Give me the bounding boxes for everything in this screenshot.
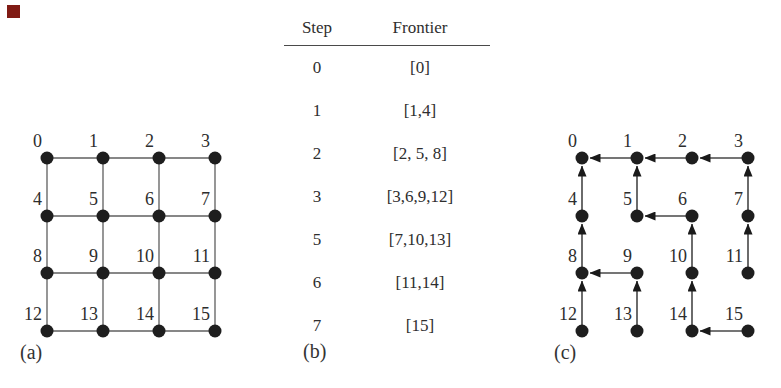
node-label-4: 4 — [33, 189, 42, 209]
node-label-11: 11 — [193, 246, 210, 266]
graph-node-2 — [686, 152, 699, 165]
frontier-cell: [2, 5, 8] — [350, 144, 490, 164]
node-label-1: 1 — [89, 131, 98, 151]
step-cell: 0 — [284, 58, 350, 78]
graph-node-10 — [153, 267, 166, 280]
graph-node-4 — [41, 210, 54, 223]
frontier-cell: [0] — [350, 58, 490, 78]
frontier-cell: [3,6,9,12] — [350, 187, 490, 207]
node-label-12: 12 — [559, 304, 577, 324]
graph-node-8 — [41, 267, 54, 280]
graph-node-5 — [631, 210, 644, 223]
node-label-9: 9 — [623, 246, 632, 266]
graph-node-4 — [576, 210, 589, 223]
node-label-15: 15 — [192, 304, 210, 324]
node-label-13: 13 — [80, 304, 98, 324]
bfs-figure: 0123456789101112131415 01234567891011121… — [0, 0, 781, 388]
node-label-2: 2 — [678, 131, 687, 151]
frontier-table-rows: 0 [0] 1 [1,4] 2 [2, 5, 8] 3 [3,6,9,12] 5… — [284, 46, 490, 347]
graph-node-11 — [209, 267, 222, 280]
caption-a: (a) — [20, 341, 42, 364]
graph-node-0 — [41, 152, 54, 165]
frontier-table: Step Frontier 0 [0] 1 [1,4] 2 [2, 5, 8] … — [284, 10, 490, 347]
grid-graph-panel-a: 0123456789101112131415 — [24, 131, 222, 338]
step-cell: 1 — [284, 101, 350, 121]
node-label-6: 6 — [145, 189, 154, 209]
graph-node-7 — [209, 210, 222, 223]
graph-node-12 — [41, 325, 54, 338]
node-label-7: 7 — [734, 189, 743, 209]
column-header-step: Step — [284, 18, 350, 38]
node-label-1: 1 — [623, 131, 632, 151]
bfs-tree-panel-c: 0123456789101112131415 — [559, 131, 755, 338]
graph-node-5 — [97, 210, 110, 223]
node-label-11: 11 — [726, 246, 743, 266]
node-label-0: 0 — [33, 131, 42, 151]
frontier-table-row: 6 [11,14] — [284, 261, 490, 304]
node-label-8: 8 — [568, 246, 577, 266]
step-cell: 7 — [284, 316, 350, 336]
graph-node-14 — [686, 325, 699, 338]
frontier-cell: [7,10,13] — [350, 230, 490, 250]
graph-node-10 — [686, 267, 699, 280]
graph-node-9 — [97, 267, 110, 280]
step-cell: 2 — [284, 144, 350, 164]
frontier-table-row: 1 [1,4] — [284, 89, 490, 132]
node-label-10: 10 — [136, 246, 154, 266]
graph-node-8 — [576, 267, 589, 280]
node-label-8: 8 — [33, 246, 42, 266]
graph-node-2 — [153, 152, 166, 165]
node-label-2: 2 — [145, 131, 154, 151]
node-label-14: 14 — [669, 304, 687, 324]
graph-node-3 — [742, 152, 755, 165]
graph-node-0 — [576, 152, 589, 165]
caption-b: (b) — [303, 340, 326, 363]
node-label-0: 0 — [568, 131, 577, 151]
graph-node-13 — [631, 325, 644, 338]
node-label-7: 7 — [201, 189, 210, 209]
node-label-12: 12 — [24, 304, 42, 324]
graph-node-9 — [631, 267, 644, 280]
frontier-table-row: 5 [7,10,13] — [284, 218, 490, 261]
frontier-cell: [15] — [350, 316, 490, 336]
node-label-5: 5 — [623, 189, 632, 209]
graph-node-15 — [742, 325, 755, 338]
node-label-3: 3 — [734, 131, 743, 151]
node-label-14: 14 — [136, 304, 154, 324]
node-label-5: 5 — [89, 189, 98, 209]
frontier-table-header: Step Frontier — [284, 10, 490, 46]
graph-node-13 — [97, 325, 110, 338]
node-label-6: 6 — [678, 189, 687, 209]
frontier-table-row: 0 [0] — [284, 46, 490, 89]
frontier-cell: [11,14] — [350, 273, 490, 293]
node-label-3: 3 — [201, 131, 210, 151]
graph-node-7 — [742, 210, 755, 223]
graph-node-1 — [631, 152, 644, 165]
caption-c: (c) — [554, 341, 576, 364]
frontier-table-row: 2 [2, 5, 8] — [284, 132, 490, 175]
graph-node-15 — [209, 325, 222, 338]
node-label-15: 15 — [725, 304, 743, 324]
graph-node-3 — [209, 152, 222, 165]
frontier-cell: [1,4] — [350, 101, 490, 121]
graph-node-14 — [153, 325, 166, 338]
graph-node-1 — [97, 152, 110, 165]
step-cell: 6 — [284, 273, 350, 293]
graph-node-12 — [576, 325, 589, 338]
graph-node-6 — [686, 210, 699, 223]
graph-node-11 — [742, 267, 755, 280]
node-label-13: 13 — [614, 304, 632, 324]
step-cell: 3 — [284, 187, 350, 207]
node-label-9: 9 — [89, 246, 98, 266]
step-cell: 5 — [284, 230, 350, 250]
frontier-table-row: 3 [3,6,9,12] — [284, 175, 490, 218]
column-header-frontier: Frontier — [350, 18, 490, 38]
graph-node-6 — [153, 210, 166, 223]
node-label-10: 10 — [669, 246, 687, 266]
node-label-4: 4 — [568, 189, 577, 209]
